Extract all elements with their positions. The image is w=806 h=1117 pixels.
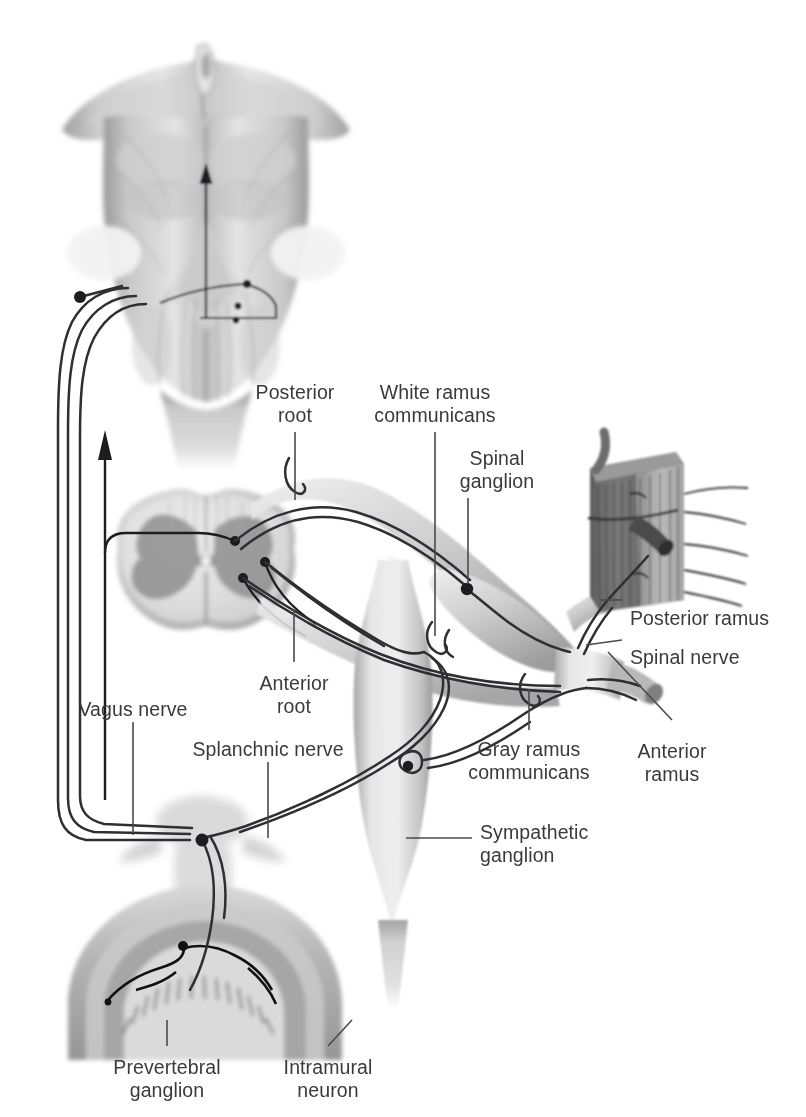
anatomy-illustration [0,0,806,1117]
label-anterior-root-line-1: Anterior [259,672,328,695]
label-spinal-nerve-line-1: Spinal nerve [630,646,740,669]
label-anterior-root-line-2: root [259,695,328,718]
label-splanchnic-nerve: Splanchnic nerve [192,738,343,761]
label-vagus-nerve-line-1: Vagus nerve [78,698,187,721]
label-intramural-neuron-line-1: Intramural [284,1056,373,1079]
label-sympathetic-ganglion: Sympatheticganglion [480,821,588,866]
sympathetic-trunk-structure [353,556,432,1010]
intramural-neuron-marker [178,941,188,951]
label-spinal-nerve: Spinal nerve [630,646,740,669]
prevertebral-ganglion-neuron [196,834,209,847]
label-gray-ramus: Gray ramuscommunicans [468,738,589,783]
label-spinal-ganglion-line-2: ganglion [460,470,535,493]
label-posterior-root: Posteriorroot [256,381,335,426]
label-sympathetic-ganglion-line-2: ganglion [480,844,588,867]
intestinal-wall-structure [68,885,342,1060]
label-anterior-ramus: Anteriorramus [637,740,706,785]
label-gray-ramus-line-2: communicans [468,761,589,784]
label-anterior-root: Anteriorroot [259,672,328,717]
label-white-ramus-line-1: White ramus [374,381,495,404]
label-spinal-ganglion-line-1: Spinal [460,447,535,470]
label-gray-ramus-line-1: Gray ramus [468,738,589,761]
label-posterior-root-line-1: Posterior [256,381,335,404]
vagal-nucleus-neuron [243,280,252,289]
label-white-ramus: White ramuscommunicans [374,381,495,426]
label-intramural-neuron: Intramuralneuron [284,1056,373,1101]
label-prevertebral-ganglion-line-2: ganglion [113,1079,220,1102]
label-prevertebral-ganglion-line-1: Prevertebral [113,1056,220,1079]
label-anterior-ramus-line-2: ramus [637,763,706,786]
label-intramural-neuron-line-2: neuron [284,1079,373,1102]
label-posterior-ramus-line-1: Posterior ramus [630,607,769,630]
figure-canvas: PosteriorrootWhite ramuscommunicansSpina… [0,0,806,1117]
label-sympathetic-ganglion-line-1: Sympathetic [480,821,588,844]
label-vagus-nerve: Vagus nerve [78,698,187,721]
ascending-afferent-arrow-cord [98,430,112,800]
label-prevertebral-ganglion: Prevertebralganglion [113,1056,220,1101]
label-splanchnic-nerve-line-1: Splanchnic nerve [192,738,343,761]
label-posterior-ramus: Posterior ramus [630,607,769,630]
label-white-ramus-line-2: communicans [374,404,495,427]
label-posterior-root-line-2: root [256,404,335,427]
label-spinal-ganglion: Spinalganglion [460,447,535,492]
skeletal-muscle-inset [588,432,748,612]
label-anterior-ramus-line-1: Anterior [637,740,706,763]
